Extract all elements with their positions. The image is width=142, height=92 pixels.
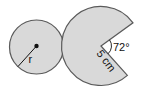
center-point: [34, 44, 38, 48]
angle-label: 72°: [113, 41, 130, 53]
angle-arc: [108, 40, 112, 54]
left-circle: r: [10, 20, 64, 74]
right-sector: 72° 5 cm: [62, 6, 133, 85]
circle-sector-diagram: r 72° 5 cm: [0, 0, 142, 92]
radius-label-r: r: [29, 53, 33, 65]
